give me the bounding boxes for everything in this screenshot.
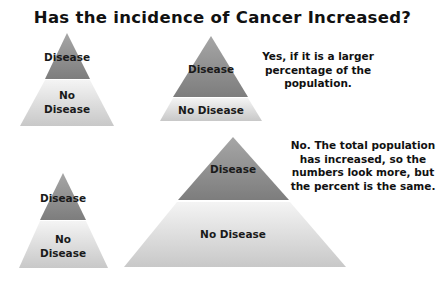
no-disease-label-line1: No — [55, 233, 71, 245]
note-no-line: numbers look more, but — [284, 166, 442, 180]
note-no-line: No. The total population — [284, 139, 442, 153]
disease-label: Disease — [40, 192, 86, 204]
no-disease-label-line2: Disease — [44, 103, 90, 115]
no-disease-label-line2: Disease — [40, 247, 86, 259]
pyramid-small-top-left: Disease No Disease — [20, 33, 114, 126]
note-yes: Yes, if it is a larger percentage of the… — [252, 50, 384, 91]
disease-label: Disease — [44, 51, 90, 63]
pyramid-larger-disease: Disease No Disease — [160, 36, 262, 121]
pyramid-small-bottom-left: Disease No Disease — [19, 173, 108, 268]
no-disease-label: No Disease — [200, 228, 266, 240]
note-no: No. The total population has increased, … — [284, 139, 442, 193]
no-disease-label: No Disease — [178, 104, 244, 116]
no-disease-label-line1: No — [59, 89, 75, 101]
note-yes-line: population. — [252, 77, 384, 91]
disease-label: Disease — [188, 63, 234, 75]
note-yes-line: percentage of the — [252, 64, 384, 78]
note-yes-line: Yes, if it is a larger — [252, 50, 384, 64]
note-no-line: has increased, so the — [284, 153, 442, 167]
note-no-line: the percent is the same. — [284, 180, 442, 194]
disease-label: Disease — [210, 163, 256, 175]
